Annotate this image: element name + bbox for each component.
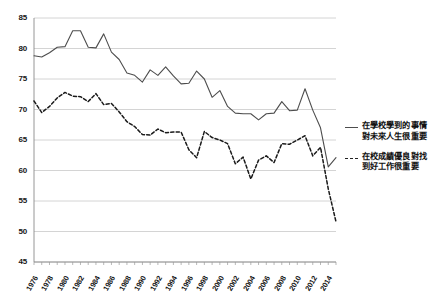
y-axis-tick-label: 85 bbox=[5, 13, 27, 22]
series-lines bbox=[34, 31, 336, 222]
line-chart: 455055606570758085 197619781980198219841… bbox=[0, 0, 434, 295]
dashed-line-swatch-icon bbox=[345, 154, 358, 164]
y-axis-tick-label: 50 bbox=[5, 227, 27, 236]
solid-line-swatch-icon bbox=[345, 123, 358, 133]
legend-item-school-learning[interactable]: 在學校學到的事情對未來人生很重要 bbox=[345, 120, 434, 142]
y-axis-tick-label: 80 bbox=[5, 44, 27, 53]
legend: 在學校學到的事情對未來人生很重要 在校成績優良對找到好工作很重要 bbox=[345, 120, 434, 181]
legend-item-good-grades[interactable]: 在校成績優良對找到好工作很重要 bbox=[345, 151, 434, 173]
legend-label-good-grades: 在校成績優良對找到好工作很重要 bbox=[362, 151, 427, 173]
series-line-1 bbox=[34, 92, 336, 221]
y-axis-tick-label: 65 bbox=[5, 135, 27, 144]
x-tick-marks bbox=[34, 262, 336, 265]
y-axis-tick-label: 45 bbox=[5, 257, 27, 266]
legend-label-school-learning: 在學校學到的事情對未來人生很重要 bbox=[362, 120, 427, 142]
series-line-0 bbox=[34, 31, 336, 167]
y-axis-tick-label: 55 bbox=[5, 196, 27, 205]
y-axis-tick-label: 75 bbox=[5, 74, 27, 83]
y-axis-tick-label: 70 bbox=[5, 105, 27, 114]
y-axis-tick-label: 60 bbox=[5, 166, 27, 175]
